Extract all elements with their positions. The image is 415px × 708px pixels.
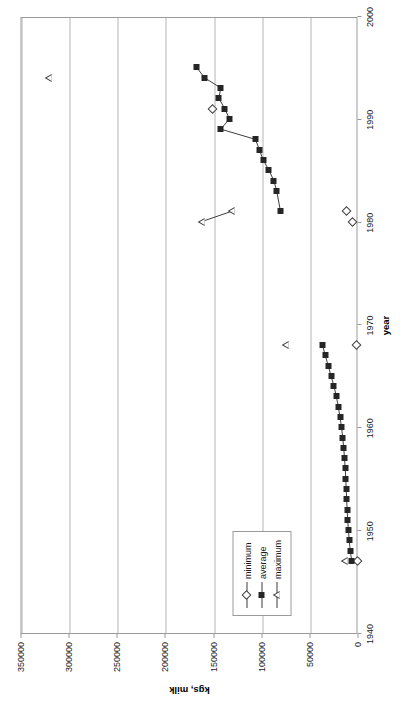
legend-key-marker: [272, 591, 279, 599]
datapoint-average: [343, 486, 349, 492]
x-tick-mark: [357, 325, 361, 326]
datapoint-average: [193, 64, 199, 70]
y-tick-label: 200000: [159, 642, 169, 708]
datapoint-average: [325, 363, 331, 369]
legend-key-open-diamond: [240, 582, 253, 608]
y-tick-label: 350000: [15, 642, 25, 708]
legend-item-label: maximum: [272, 540, 282, 582]
y-tick-mark: [357, 634, 358, 638]
legend-key-filled-square: [255, 582, 268, 608]
datapoint-average: [345, 527, 351, 533]
datapoint-average: [338, 424, 344, 430]
datapoint-average: [342, 465, 348, 471]
chart-legend: minimumaveragemaximum: [232, 531, 291, 616]
datapoint-average: [277, 208, 283, 214]
y-tick-mark: [309, 634, 310, 638]
datapoint-maximum: [227, 207, 234, 215]
x-tick-label: 1980: [364, 213, 374, 233]
datapoint-average: [322, 352, 328, 358]
datapoint-average: [347, 548, 353, 554]
y-axis-title: kgs, milk: [168, 685, 209, 696]
datapoint-average: [330, 383, 336, 389]
y-tick-label: 150000: [208, 642, 218, 708]
legend-key-marker: [241, 590, 251, 600]
datapoint-average: [217, 126, 223, 132]
datapoint-average: [339, 435, 345, 441]
plot-area: [20, 17, 357, 634]
datapoint-maximum: [281, 341, 288, 349]
datapoint-average: [344, 507, 350, 513]
datapoint-average: [335, 404, 341, 410]
legend-item-label: minimum: [242, 542, 252, 582]
y-tick-mark: [261, 634, 262, 638]
datapoint-average: [260, 157, 266, 163]
datapoint-average: [273, 188, 279, 194]
legend-key-open-triangle: [270, 582, 283, 608]
x-tick-mark: [357, 16, 361, 17]
y-tick-mark: [68, 634, 69, 638]
y-tick-label: 100000: [256, 642, 266, 708]
series-line-average: [196, 67, 280, 211]
x-tick-mark: [357, 633, 361, 634]
y-tick-label: 0: [352, 642, 362, 708]
x-axis-title: year: [379, 316, 390, 336]
datapoint-average: [348, 558, 354, 564]
datapoint-average: [265, 167, 271, 173]
x-tick-mark: [357, 427, 361, 428]
x-tick-label: 1940: [364, 624, 374, 644]
datapoint-average: [341, 455, 347, 461]
y-tick-mark: [20, 634, 21, 638]
datapoint-average: [201, 75, 207, 81]
x-tick-label: 1970: [364, 315, 374, 335]
x-tick-label: 2000: [364, 7, 374, 27]
datapoint-average: [337, 414, 343, 420]
datapoint-maximum: [44, 74, 51, 82]
y-tick-mark: [213, 634, 214, 638]
legend-item-average: average: [254, 539, 269, 608]
x-tick-mark: [357, 530, 361, 531]
datapoint-average: [340, 445, 346, 451]
datapoint-average: [256, 147, 262, 153]
series-line-layer: [21, 18, 356, 633]
x-tick-label: 1990: [364, 110, 374, 130]
y-tick-label: 300000: [63, 642, 73, 708]
datapoint-average: [343, 496, 349, 502]
datapoint-average: [328, 373, 334, 379]
y-tick-mark: [164, 634, 165, 638]
datapoint-average: [333, 393, 339, 399]
legend-item-minimum: minimum: [239, 539, 254, 608]
x-tick-label: 1960: [364, 418, 374, 438]
legend-item-label: average: [257, 546, 267, 582]
datapoint-maximum: [340, 557, 347, 565]
datapoint-average: [226, 116, 232, 122]
datapoint-average: [252, 136, 258, 142]
datapoint-average: [344, 517, 350, 523]
series-line-maximum: [201, 211, 231, 221]
y-tick-label: 250000: [111, 642, 121, 708]
x-tick-mark: [357, 119, 361, 120]
datapoint-average: [270, 178, 276, 184]
datapoint-average: [215, 95, 221, 101]
legend-key-marker: [258, 592, 264, 598]
datapoint-average: [346, 537, 352, 543]
datapoint-maximum: [197, 218, 204, 226]
y-tick-label: 50000: [304, 642, 314, 708]
x-tick-label: 1950: [364, 521, 374, 541]
datapoint-average: [221, 106, 227, 112]
y-tick-mark: [116, 634, 117, 638]
x-tick-mark: [357, 222, 361, 223]
datapoint-average: [342, 476, 348, 482]
chart-figure: 0500001000001500002000002500003000003500…: [0, 0, 415, 708]
datapoint-average: [319, 342, 325, 348]
legend-item-maximum: maximum: [269, 539, 284, 608]
datapoint-average: [217, 85, 223, 91]
